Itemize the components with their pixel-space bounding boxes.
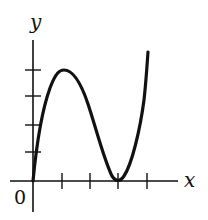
origin-label: 0 (14, 186, 26, 208)
function-curve (33, 52, 148, 181)
x-axis-label: x (184, 168, 195, 192)
y-axis-label: y (30, 10, 41, 34)
